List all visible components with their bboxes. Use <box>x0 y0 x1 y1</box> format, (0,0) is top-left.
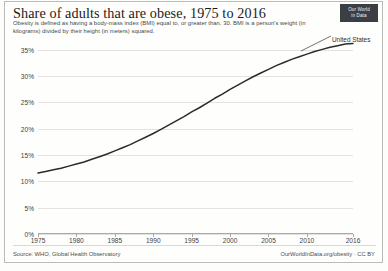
x-axis-tick-label: 1980 <box>69 237 84 244</box>
y-axis-tick-label: 35% <box>21 46 34 53</box>
x-axis-tick-label: 1985 <box>107 237 122 244</box>
footer-divider <box>13 245 376 246</box>
source-note: Source: WHO, Global Health Observatory <box>13 251 120 257</box>
x-axis-tick-label: 1990 <box>146 237 161 244</box>
series-line-united-states <box>38 42 353 234</box>
series-leader-line-icon <box>301 34 335 52</box>
x-axis-tick-label: 2000 <box>223 237 238 244</box>
series-path <box>38 44 353 173</box>
y-axis-tick-label: 20% <box>21 125 34 132</box>
chart-screenshot: Share of adults that are obese, 1975 to … <box>0 0 388 271</box>
chart-card: Share of adults that are obese, 1975 to … <box>4 1 383 263</box>
y-axis-tick-label: 5% <box>24 204 34 211</box>
x-axis-tick-label: 2010 <box>300 237 315 244</box>
gridline <box>38 234 353 235</box>
plot-area: 0%5%10%15%20%25%30%35% 19751980198519901… <box>38 42 353 234</box>
y-axis-tick-label: 10% <box>21 178 34 185</box>
owid-logo-line2: in Data <box>340 13 378 19</box>
y-axis-tick-label: 30% <box>21 73 34 80</box>
x-axis-tick-label: 2005 <box>261 237 276 244</box>
owid-logo-line1: Our World <box>348 7 370 12</box>
y-axis-tick-label: 25% <box>21 99 34 106</box>
x-axis-tick-label: 1975 <box>31 237 46 244</box>
series-label-united-states: United States <box>332 36 370 43</box>
owid-logo[interactable]: Our World in Data <box>340 4 378 22</box>
y-axis-tick-label: 15% <box>21 152 34 159</box>
x-axis-tick-label: 1995 <box>184 237 199 244</box>
x-axis-tick-label: 2016 <box>346 237 361 244</box>
chart-subtitle: Obesity is defined as having a body-mass… <box>13 20 323 35</box>
attribution-note[interactable]: OurWorldInData.org/obesity · CC BY <box>280 251 375 257</box>
